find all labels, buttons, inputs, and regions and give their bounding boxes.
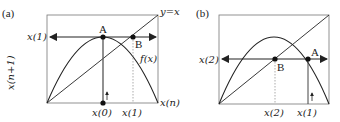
point-a-label: A: [311, 46, 319, 58]
point-x0: [100, 100, 105, 105]
point-a: [100, 34, 105, 39]
x-tick-label-x1: x(1): [122, 107, 142, 118]
panel-b-label: (b): [196, 7, 209, 20]
x-tick-label-x0: x(0): [92, 107, 112, 118]
y-tick-label: x(1): [27, 31, 47, 42]
y-tick-label: x(2): [199, 54, 219, 65]
point-a: [305, 56, 310, 61]
curve-label: f(x): [139, 53, 157, 64]
x-axis-label: x(n): [160, 97, 180, 108]
x-tick-label-x2: x(2): [264, 107, 284, 118]
point-b-label: B: [277, 61, 284, 73]
diagonal-label: y=x: [159, 6, 180, 17]
point-a-label: A: [99, 23, 107, 35]
x-tick-label-x1: x(1): [297, 107, 317, 118]
point-b-label: B: [135, 38, 142, 50]
y-axis-label: x(n+1): [5, 55, 16, 90]
panel-b: (b) A B x(2) x(2) x(1): [196, 7, 329, 118]
panel-a-label: (a): [2, 7, 15, 20]
panel-a: (a) y=x f(x) A B x(1) x(0) x(1) x(n) x(n…: [2, 6, 180, 118]
cobweb-diagram: (a) y=x f(x) A B x(1) x(0) x(1) x(n) x(n…: [0, 0, 340, 122]
